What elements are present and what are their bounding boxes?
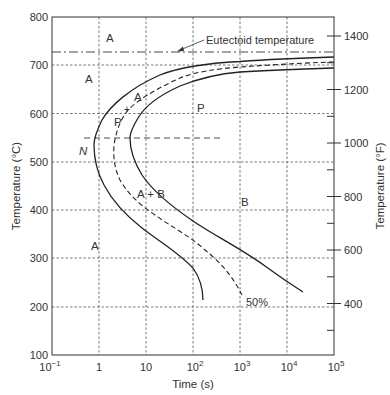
y-tick-400: 400 [30, 204, 48, 216]
y-tick-200: 200 [30, 301, 48, 313]
label-plus: + [124, 104, 130, 115]
y-tick-500: 500 [30, 156, 48, 168]
y2-tick-400: 400 [344, 298, 362, 310]
x-axis-labels: 10−1 1 10 102 103 104 105 [39, 359, 345, 373]
y2-tick-1200: 1200 [344, 84, 368, 96]
fifty-percent-curve [114, 62, 334, 295]
y-tick-700: 700 [30, 59, 48, 71]
start-curve [94, 57, 334, 300]
x-axis-title: Time (s) [172, 378, 214, 390]
x-tick-1000: 103 [234, 359, 251, 373]
y2-tick-1400: 1400 [344, 30, 368, 42]
y-tick-800: 800 [30, 11, 48, 23]
label-b: B [241, 196, 249, 208]
y2-tick-1000: 1000 [344, 137, 368, 149]
label-50-percent: 50% [246, 296, 268, 308]
x-tick-100000: 105 [328, 359, 345, 373]
label-n: N [79, 145, 88, 157]
eutectoid-label: Eutectoid temperature [206, 34, 314, 46]
y-tick-100: 100 [30, 349, 48, 361]
x-tick-10: 10 [140, 361, 152, 373]
y2-tick-800: 800 [344, 191, 362, 203]
left-axis-labels: 800 700 600 500 400 300 200 100 [30, 11, 48, 361]
ttt-diagram: 800 700 600 500 400 300 200 100 1400 120… [0, 0, 390, 395]
label-a-low: A [91, 240, 99, 252]
label-p-inner: P [114, 116, 122, 128]
y-axis-title-left: Temperature (°C) [10, 142, 22, 230]
x-tick-10000: 104 [281, 359, 298, 373]
label-p-right: P [197, 102, 205, 114]
right-axis-labels: 1400 1200 1000 800 600 400 [344, 30, 368, 310]
x-tick-1: 1 [96, 361, 102, 373]
x-tick-0.1: 10−1 [39, 359, 61, 373]
y2-tick-600: 600 [344, 244, 362, 256]
label-a-mid: A [85, 73, 93, 85]
gridlines [52, 17, 334, 355]
y-axis-title-right: Temperature (°F) [374, 142, 386, 229]
label-a-top: A [106, 32, 114, 44]
label-a-plus-b: A + B [137, 188, 165, 200]
arrowhead-icon [177, 47, 184, 52]
x-tick-100: 102 [187, 359, 204, 373]
y-tick-600: 600 [30, 108, 48, 120]
eutectoid-arrow [180, 40, 204, 50]
y-tick-300: 300 [30, 252, 48, 264]
label-a-inner: A [134, 91, 142, 103]
